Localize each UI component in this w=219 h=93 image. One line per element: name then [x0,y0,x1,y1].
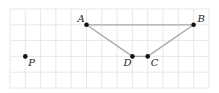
label-A: A [77,13,85,24]
point-B [191,23,196,28]
point-C [145,54,150,59]
label-P: P [27,57,35,68]
label-D: D [122,57,131,68]
point-P [23,54,28,59]
label-B: B [197,13,205,24]
label-C: C [151,57,159,68]
grid-diagram: ABCDP [0,0,219,93]
grid [10,9,209,88]
point-A [84,23,89,28]
